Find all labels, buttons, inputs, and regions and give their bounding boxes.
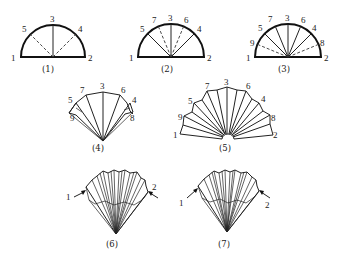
label-5: 5 xyxy=(140,24,145,34)
caption-2: (2) xyxy=(161,64,173,74)
fold-line-9 xyxy=(184,116,223,136)
label-9: 9 xyxy=(70,113,75,123)
label-1: 1 xyxy=(66,192,71,202)
label-4: 4 xyxy=(312,23,317,33)
label-9: 9 xyxy=(250,38,255,48)
label-3: 3 xyxy=(100,81,105,91)
label-2: 2 xyxy=(265,200,270,210)
fold-line xyxy=(229,90,237,134)
label-4: 4 xyxy=(78,24,83,34)
panel-7: 1 2 (7) xyxy=(179,170,270,249)
fan-top-edge xyxy=(69,92,133,114)
fold-line-8 xyxy=(103,112,133,141)
label-2: 2 xyxy=(207,53,212,63)
label-5: 5 xyxy=(68,95,73,105)
label-6: 6 xyxy=(301,15,306,25)
fold-line-5 xyxy=(265,34,288,57)
fold-line-5 xyxy=(30,34,53,57)
label-7: 7 xyxy=(268,14,273,24)
label-5: 5 xyxy=(22,24,27,34)
label-4: 4 xyxy=(132,95,137,105)
label-1: 1 xyxy=(129,53,134,63)
label-4: 4 xyxy=(197,24,202,34)
arrowhead-2-icon xyxy=(259,190,264,195)
caption-5: (5) xyxy=(219,143,231,153)
fold-line-5 xyxy=(148,34,171,57)
label-3: 3 xyxy=(224,77,229,87)
caption-4: (4) xyxy=(92,143,104,153)
label-9: 9 xyxy=(178,112,183,122)
panel-1: 1 2 3 4 5 (1) xyxy=(11,14,93,74)
fold-line-7 xyxy=(158,27,171,58)
label-2: 2 xyxy=(324,53,329,63)
label-8: 8 xyxy=(130,113,135,123)
fold-line-5 xyxy=(194,103,224,135)
panel-4: 3 4 5 6 7 8 9 (4) xyxy=(68,81,137,153)
label-6: 6 xyxy=(246,81,251,91)
label-5: 5 xyxy=(258,23,263,33)
label-7: 7 xyxy=(80,85,85,95)
panel-2: 1 2 3 4 5 6 7 (2) xyxy=(129,13,212,74)
label-3: 3 xyxy=(285,13,290,23)
label-5: 5 xyxy=(188,96,193,106)
caption-3: (3) xyxy=(278,64,290,74)
caption-1: (1) xyxy=(42,64,54,74)
fan-top-edge xyxy=(198,170,259,191)
label-2: 2 xyxy=(152,182,157,192)
arrowhead-1-icon xyxy=(81,190,86,195)
fold-line xyxy=(202,100,225,134)
label-4: 4 xyxy=(261,94,266,104)
label-3: 3 xyxy=(50,14,55,24)
fold-line-6 xyxy=(171,27,184,58)
fold-line xyxy=(209,175,227,232)
label-6: 6 xyxy=(184,15,189,25)
caption-7: (7) xyxy=(218,239,230,249)
panel-3: 1 2 3 4 5 6 7 8 9 (3) xyxy=(246,13,329,74)
label-8: 8 xyxy=(320,38,325,48)
fold-line xyxy=(192,112,224,135)
panel-6: 1 2 (6) xyxy=(66,170,158,249)
fold-line-4 xyxy=(53,34,76,57)
label-2: 2 xyxy=(273,130,278,140)
fold-line-7 xyxy=(207,91,225,134)
label-7: 7 xyxy=(205,81,210,91)
label-7: 7 xyxy=(152,15,157,25)
label-1: 1 xyxy=(11,53,16,63)
fold-line-6 xyxy=(103,95,120,141)
caption-6: (6) xyxy=(106,239,118,249)
label-8: 8 xyxy=(271,113,276,123)
panel-5: 1 2 3 4 5 6 7 8 9 (5) xyxy=(173,77,278,153)
fold-line-4 xyxy=(288,34,311,57)
fan-top-edge xyxy=(86,170,148,192)
label-2: 2 xyxy=(88,53,93,63)
fan-folding-diagram: 1 2 3 4 5 (1) 1 2 3 4 5 6 7 (2) 1 2 3 4 xyxy=(0,0,340,264)
fold-line-4 xyxy=(171,34,194,57)
fold-line xyxy=(217,90,226,134)
label-1: 1 xyxy=(179,198,184,208)
label-1: 1 xyxy=(246,53,251,63)
fold-line-2 xyxy=(234,135,273,139)
label-6: 6 xyxy=(121,85,126,95)
label-1: 1 xyxy=(173,130,178,140)
fan-outline-left xyxy=(198,186,227,232)
label-3: 3 xyxy=(168,13,173,23)
